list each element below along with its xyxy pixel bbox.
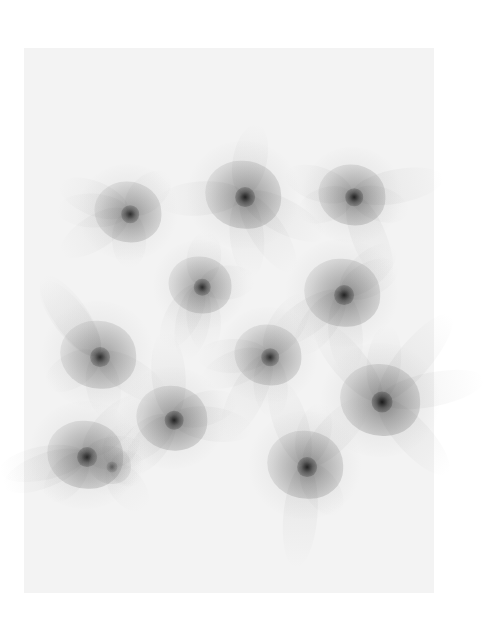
flower-center [165, 411, 184, 430]
flower-center [345, 188, 363, 206]
flower-center [235, 187, 255, 207]
flower-center [297, 457, 317, 477]
flower-center [107, 462, 118, 473]
flower-center [334, 285, 354, 305]
flower-center [121, 205, 139, 223]
flower-center [261, 348, 279, 366]
flower-center [90, 347, 110, 367]
flower-center [194, 279, 211, 296]
flower-center [372, 392, 393, 413]
